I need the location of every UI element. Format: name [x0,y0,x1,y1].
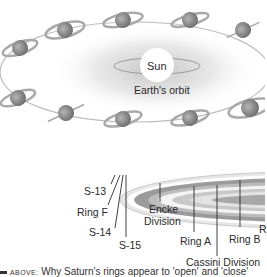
ring-system [0,140,265,230]
s14-label: S-14 [89,226,111,238]
ring-f-label: Ring F [77,206,108,218]
earth-orbit-label: Earth's orbit [134,84,190,96]
s13-label: S-13 [84,185,106,197]
ring-a-label: Ring A [180,235,211,247]
sun-label: Sun [147,60,167,73]
caption-text: Why Saturn's rings appear to 'open' and … [41,266,248,277]
saturn-icon [44,97,87,128]
encke-label-line1: Encke [149,203,178,215]
ring-b-label: Ring B [229,233,261,245]
saturn-icon [0,84,38,111]
s15-label: S-15 [119,239,141,251]
caption-prefix: ABOVE: [10,269,38,276]
ring-c-label-partial: R [259,223,267,235]
caption-bullet-icon [0,271,7,274]
figure-caption: ABOVE: Why Saturn's rings appear to 'ope… [0,266,248,277]
encke-label-line2: Division [144,215,181,227]
